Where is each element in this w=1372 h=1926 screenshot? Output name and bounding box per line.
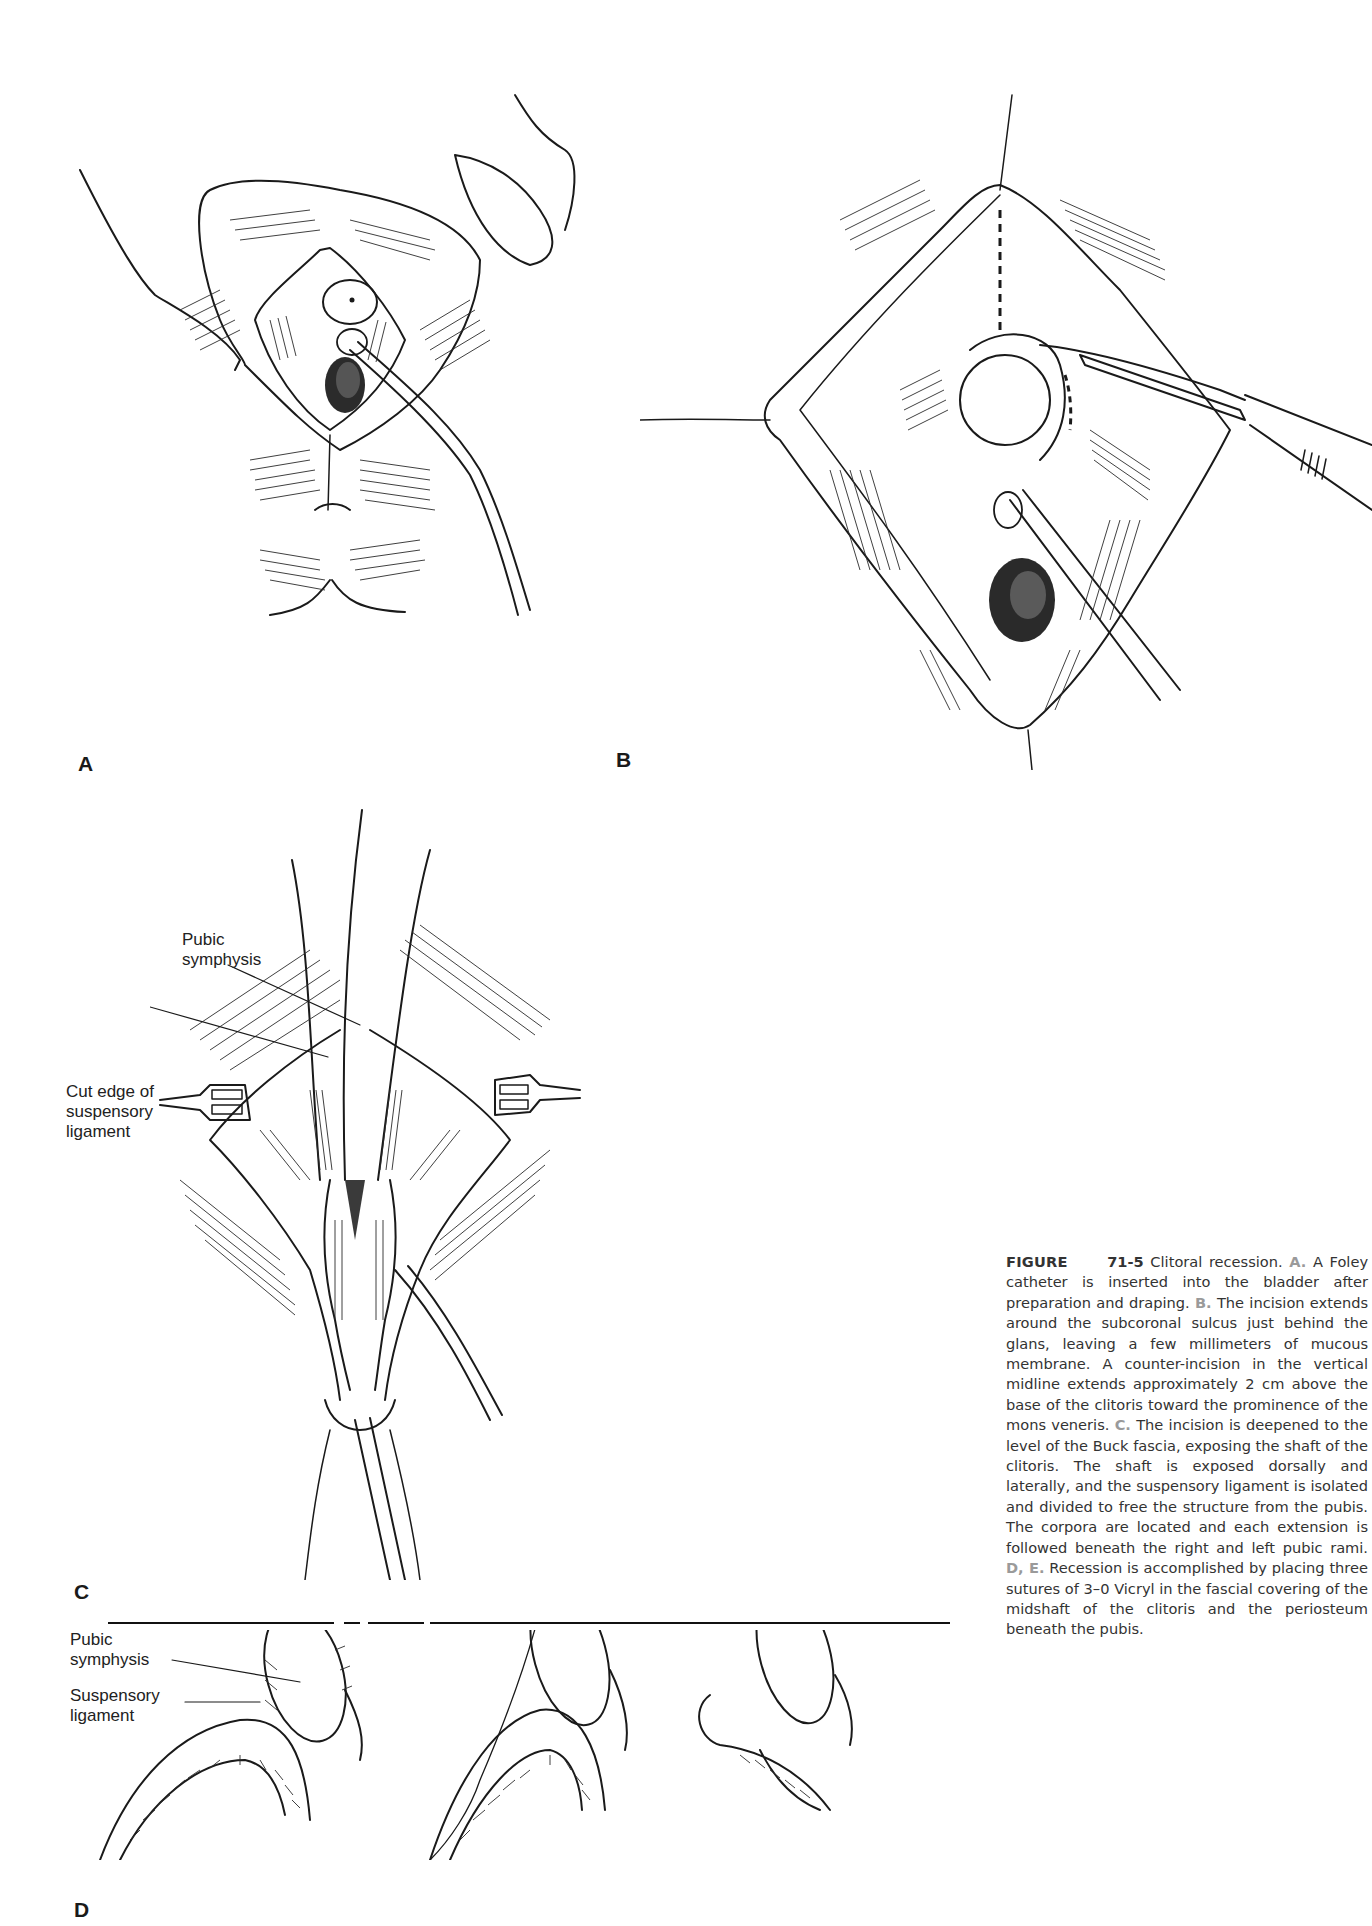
circumcoronal-incision-illustration [640, 90, 1372, 770]
divider-gap [334, 1619, 344, 1627]
illustration-panel-d [60, 1630, 960, 1860]
figure-title-word: FIGURE [1006, 1253, 1068, 1270]
suspensory-ligament-exposure-illustration [150, 800, 950, 1580]
label-d-suspensory-ligament: Suspensory ligament [70, 1686, 160, 1726]
divider-gap [424, 1619, 430, 1627]
label-c-pubic-symphysis: Pubic symphysis [182, 930, 261, 970]
caption-ref-b: B. [1195, 1294, 1212, 1311]
clitoral-recession-pubis-illustration [60, 1630, 960, 1860]
perineum-foley-catheter-illustration [60, 80, 580, 760]
illustration-panel-a [60, 80, 580, 760]
caption-ref-a: A. [1289, 1253, 1306, 1270]
figure-caption: FIGURE 71-5 Clitoral recession. A. A Fol… [1006, 1252, 1368, 1640]
divider-gap [360, 1619, 368, 1627]
caption-text-c: The incision is deepened to the level of… [1006, 1416, 1368, 1555]
caption-ref-de: D, E. [1006, 1559, 1044, 1576]
caption-ref-c: C. [1115, 1416, 1131, 1433]
label-c-cut-edge-suspensory-ligament: Cut edge of suspensory ligament [66, 1082, 154, 1142]
caption-text-de: Recession is accomplished by placing thr… [1006, 1559, 1368, 1637]
panel-letter-c: C [74, 1580, 89, 1604]
caption-text-b: The incision extends around the subcoron… [1006, 1294, 1368, 1433]
panel-letter-a: A [78, 752, 93, 776]
figure-short-title: Clitoral recession. [1150, 1253, 1282, 1270]
panel-divider-line [108, 1622, 950, 1624]
illustration-panel-c [150, 800, 950, 1580]
label-d-pubic-symphysis: Pubic symphysis [70, 1630, 149, 1670]
illustration-panel-b [640, 90, 1372, 770]
panel-letter-d: D [74, 1898, 89, 1922]
panel-letter-b: B [616, 748, 631, 772]
figure-number: 71-5 [1107, 1253, 1144, 1270]
